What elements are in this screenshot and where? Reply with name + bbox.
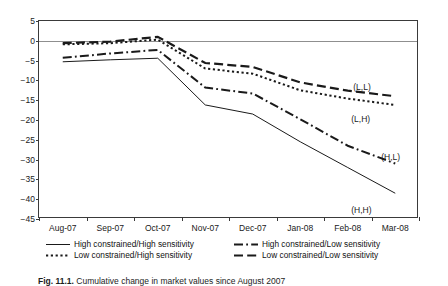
legend-entry: Low constrained/High sensitivity bbox=[46, 251, 228, 259]
y-axis-tick-label: −20 bbox=[21, 116, 35, 125]
chart-legend: High constrained/High sensitivityHigh co… bbox=[46, 239, 416, 261]
y-axis-tick-label: −15 bbox=[21, 96, 35, 105]
series-annotation-hh: (H,H) bbox=[351, 206, 371, 215]
y-axis-tick-label: −35 bbox=[21, 175, 35, 184]
series-annotation-ll: (L,L) bbox=[353, 83, 370, 92]
y-axis-tick-mark bbox=[36, 41, 39, 42]
caption-label: Fig. 11.1. bbox=[38, 276, 74, 286]
legend-entry: Low constrained/Low sensitivity bbox=[234, 251, 416, 259]
y-axis-tick-label: −5 bbox=[25, 56, 35, 65]
x-axis-tick-mark bbox=[87, 217, 88, 221]
legend-label: High constrained/High sensitivity bbox=[74, 240, 194, 248]
legend-entry: High constrained/High sensitivity bbox=[46, 240, 228, 248]
x-axis-tick-label: Jan-08 bbox=[287, 224, 313, 233]
y-axis-tick-mark bbox=[36, 61, 39, 62]
y-axis-tick-mark bbox=[36, 140, 39, 141]
legend-label: Low constrained/High sensitivity bbox=[74, 251, 192, 259]
y-axis-tick-label: −10 bbox=[21, 76, 35, 85]
y-axis-tick-label: −25 bbox=[21, 136, 35, 145]
x-axis-tick-mark bbox=[182, 217, 183, 221]
x-axis-tick-label: Feb-08 bbox=[334, 224, 361, 233]
y-axis-tick-label: −45 bbox=[21, 215, 35, 224]
legend-swatch-dashed bbox=[234, 252, 258, 259]
y-axis-tick-mark bbox=[36, 199, 39, 200]
x-axis-tick-label: Nov-07 bbox=[192, 224, 219, 233]
chart-plot-area: 50−5−10−15−20−25−30−35−40−45Aug-07Sep-07… bbox=[38, 20, 418, 218]
legend-label: Low constrained/Low sensitivity bbox=[262, 251, 378, 259]
series-annotation-lh: (L,H) bbox=[351, 115, 370, 124]
x-axis-tick-label: Sep-07 bbox=[97, 224, 124, 233]
y-axis-tick-label: 5 bbox=[30, 17, 35, 26]
legend-swatch-dotted bbox=[46, 252, 70, 259]
x-axis-tick-mark bbox=[134, 217, 135, 221]
x-axis-tick-mark bbox=[39, 217, 40, 221]
x-axis-tick-mark bbox=[324, 217, 325, 221]
y-axis-tick-label: 0 bbox=[30, 37, 35, 46]
y-axis-tick-mark bbox=[36, 21, 39, 22]
series-line-lh bbox=[63, 40, 396, 105]
y-axis-tick-label: −40 bbox=[21, 195, 35, 204]
figure-caption: Fig. 11.1. Cumulative change in market v… bbox=[38, 276, 438, 286]
x-axis-tick-mark bbox=[277, 217, 278, 221]
legend-entry: High constrained/Low sensitivity bbox=[234, 240, 416, 248]
series-annotation-hl: (H,L) bbox=[381, 153, 400, 162]
y-axis-tick-mark bbox=[36, 100, 39, 101]
y-axis-tick-mark bbox=[36, 179, 39, 180]
y-axis-tick-label: −30 bbox=[21, 155, 35, 164]
series-line-ll bbox=[63, 37, 396, 96]
x-axis-tick-mark bbox=[419, 217, 420, 221]
y-axis-tick-mark bbox=[36, 120, 39, 121]
x-axis-tick-label: Aug-07 bbox=[49, 224, 76, 233]
y-axis-tick-mark bbox=[36, 80, 39, 81]
x-axis-tick-label: Mar-08 bbox=[382, 224, 409, 233]
x-axis-tick-label: Oct-07 bbox=[145, 224, 171, 233]
series-line-hl bbox=[63, 50, 396, 164]
x-axis-tick-mark bbox=[229, 217, 230, 221]
caption-text: Cumulative change in market values since… bbox=[76, 276, 285, 286]
x-axis-tick-label: Dec-07 bbox=[239, 224, 266, 233]
series-line-hh bbox=[63, 58, 396, 193]
x-axis-tick-mark bbox=[372, 217, 373, 221]
legend-swatch-dashdot bbox=[234, 241, 258, 248]
legend-swatch-solid bbox=[46, 241, 70, 248]
legend-label: High constrained/Low sensitivity bbox=[262, 240, 380, 248]
y-axis-tick-mark bbox=[36, 160, 39, 161]
